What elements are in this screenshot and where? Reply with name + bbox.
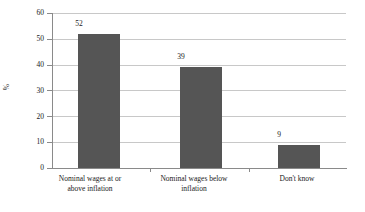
gridline-60 xyxy=(52,13,346,14)
x-category-label-2-line-1: Nominal wages below xyxy=(140,174,248,184)
x-tick-mark-1 xyxy=(150,168,151,172)
y-tick-label-60: 60 xyxy=(16,9,44,17)
y-tick-label-40: 40 xyxy=(16,61,44,69)
y-tick-label-20: 20 xyxy=(16,113,44,121)
plot-area xyxy=(52,13,346,168)
y-tick-label-30: 30 xyxy=(16,87,44,95)
x-category-label-1-line-1: Nominal wages at or xyxy=(34,174,146,184)
x-category-label-1-line-2: above inflation xyxy=(34,184,146,194)
bar-value-label-3: 9 xyxy=(258,131,300,139)
x-category-label-nominal-wages-below-inflation: Nominal wages below inflation xyxy=(140,174,248,193)
bar-value-label-1: 52 xyxy=(58,20,100,28)
y-axis-line xyxy=(52,13,53,169)
x-category-label-nominal-wages-at-or-above-inflation: Nominal wages at or above inflation xyxy=(34,174,146,193)
y-axis-title: % xyxy=(3,84,11,90)
bar-value-label-2: 39 xyxy=(160,53,202,61)
y-tick-label-10: 10 xyxy=(16,138,44,146)
bar-nominal-wages-below-inflation xyxy=(180,67,222,168)
x-tick-mark-2 xyxy=(249,168,250,172)
y-tick-label-50: 50 xyxy=(16,35,44,43)
bar-nominal-wages-at-or-above-inflation xyxy=(78,34,120,168)
y-tick-label-0: 0 xyxy=(16,164,44,172)
bar-dont-know xyxy=(278,145,320,168)
x-category-label-3-line-1: Don't know xyxy=(249,174,345,184)
bar-chart: 60 50 40 30 20 10 0 % 52 39 9 Nomi xyxy=(0,0,365,212)
x-category-label-2-line-2: inflation xyxy=(140,184,248,194)
x-axis-line xyxy=(52,168,347,169)
x-category-label-dont-know: Don't know xyxy=(249,174,345,184)
